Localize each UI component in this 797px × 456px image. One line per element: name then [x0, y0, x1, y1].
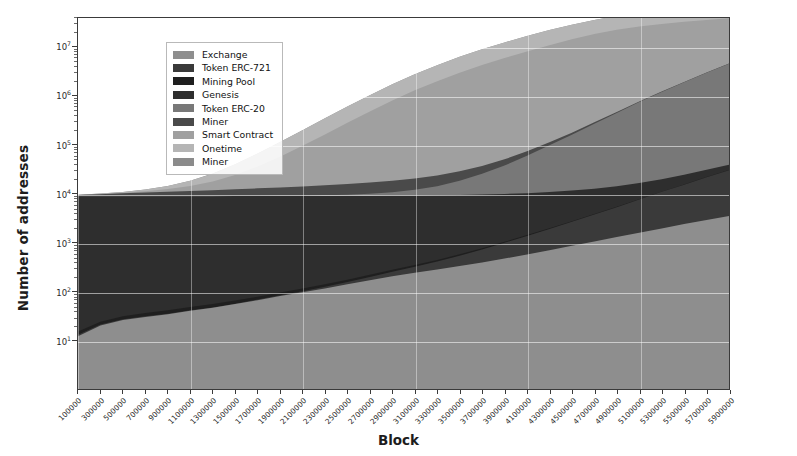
chart-figure: Number of addresses 10110210310410510610… — [0, 0, 797, 456]
x-tick-mark — [190, 390, 191, 394]
x-tick-mark — [325, 390, 326, 394]
legend-item-label: Mining Pool — [202, 77, 255, 86]
x-tick-mark — [572, 390, 573, 394]
y-tick-label: 106 — [56, 90, 71, 100]
y-tick-label: 105 — [56, 140, 71, 150]
x-tick-mark — [730, 390, 731, 394]
x-tick-mark — [280, 390, 281, 394]
y-tick-label: 102 — [56, 287, 71, 297]
legend-swatch-icon — [173, 51, 194, 59]
y-tick-label: 101 — [56, 336, 71, 346]
x-tick-label: 500000 — [102, 396, 129, 423]
legend-item-label: Genesis — [202, 90, 239, 99]
legend-item[interactable]: Token ERC-721 — [173, 61, 273, 74]
x-tick-label: 300000 — [79, 396, 106, 423]
legend-item-label: Miner — [202, 117, 228, 126]
legend-item-label: Token ERC-20 — [202, 104, 265, 113]
y-tick-label: 104 — [56, 189, 71, 199]
x-tick-mark — [617, 390, 618, 394]
x-tick-mark — [415, 390, 416, 394]
chart-legend: ExchangeToken ERC-721Mining PoolGenesisT… — [166, 42, 283, 175]
legend-swatch-icon — [173, 91, 194, 99]
x-tick-mark — [437, 390, 438, 394]
legend-item[interactable]: Exchange — [173, 48, 273, 61]
x-tick-mark — [235, 390, 236, 394]
x-tick-mark — [460, 390, 461, 394]
legend-item[interactable]: Token ERC-20 — [173, 102, 273, 115]
plot-area: ExchangeToken ERC-721Mining PoolGenesisT… — [77, 17, 730, 390]
x-tick-mark — [347, 390, 348, 394]
x-tick-mark — [392, 390, 393, 394]
x-tick-mark — [302, 390, 303, 394]
x-tick-mark — [550, 390, 551, 394]
legend-swatch-icon — [173, 104, 194, 112]
x-tick-mark — [662, 390, 663, 394]
x-tick-mark — [122, 390, 123, 394]
legend-swatch-icon — [173, 77, 194, 85]
x-tick-mark — [505, 390, 506, 394]
legend-swatch-icon — [173, 158, 194, 166]
x-axis-title: Block — [0, 432, 797, 448]
x-tick-mark — [257, 390, 258, 394]
legend-item[interactable]: Onetime — [173, 142, 273, 155]
x-tick-mark — [527, 390, 528, 394]
x-tick-mark — [640, 390, 641, 394]
legend-item[interactable]: Mining Pool — [173, 75, 273, 88]
legend-swatch-icon — [173, 118, 194, 126]
legend-swatch-icon — [173, 64, 194, 72]
legend-item-label: Token ERC-721 — [202, 63, 271, 72]
x-tick-mark — [100, 390, 101, 394]
y-tick-label: 103 — [56, 238, 71, 248]
y-tick-label: 107 — [56, 41, 71, 51]
x-tick-mark — [212, 390, 213, 394]
legend-item-label: Smart Contract — [202, 130, 273, 139]
x-tick-label: 100000 — [57, 396, 84, 423]
x-tick-label: 700000 — [124, 396, 151, 423]
legend-item-label: Onetime — [202, 144, 242, 153]
x-tick-mark — [482, 390, 483, 394]
legend-item-label: Exchange — [202, 50, 247, 59]
y-axis-ticks: 101102103104105106107 — [0, 0, 77, 456]
x-tick-mark — [370, 390, 371, 394]
legend-item[interactable]: Miner — [173, 115, 273, 128]
legend-item[interactable]: Genesis — [173, 88, 273, 101]
x-tick-mark — [145, 390, 146, 394]
legend-item[interactable]: Miner — [173, 155, 273, 168]
x-tick-mark — [595, 390, 596, 394]
x-tick-mark — [707, 390, 708, 394]
x-tick-mark — [77, 390, 78, 394]
legend-swatch-icon — [173, 144, 194, 152]
x-tick-mark — [685, 390, 686, 394]
x-tick-mark — [167, 390, 168, 394]
legend-swatch-icon — [173, 131, 194, 139]
legend-item-label: Miner — [202, 157, 228, 166]
legend-item[interactable]: Smart Contract — [173, 128, 273, 141]
